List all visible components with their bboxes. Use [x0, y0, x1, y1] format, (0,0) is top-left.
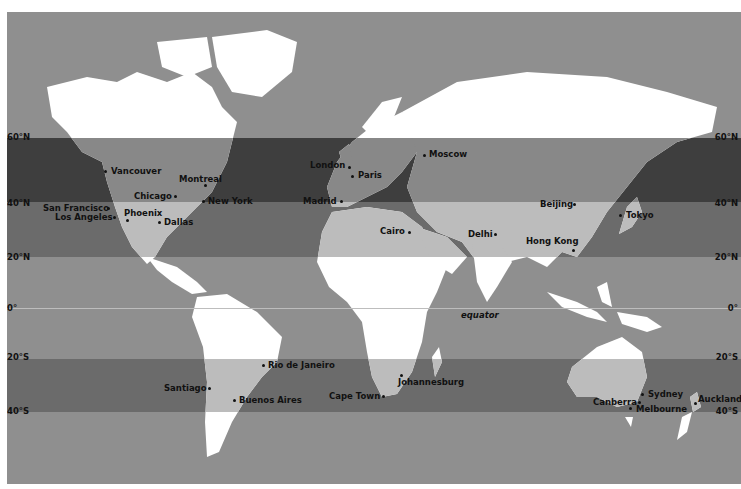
city-dot-paris: [351, 175, 354, 178]
city-label-moscow: Moscow: [429, 149, 467, 159]
city-label-new-york: New York: [208, 196, 253, 206]
lat-label-right-20n: 20°N: [715, 252, 738, 262]
lat-label-right-20s: 20°S: [716, 352, 738, 362]
lat-label-right-60n: 60°N: [715, 132, 738, 142]
city-label-los-angeles: Los Angeles: [55, 212, 113, 222]
city-dot-tokyo: [619, 214, 622, 217]
city-dot-los-angeles: [113, 216, 116, 219]
lat-label-right-40s: 40°S: [716, 406, 738, 416]
city-dot-moscow: [423, 154, 426, 157]
city-label-delhi: Delhi: [468, 229, 493, 239]
city-dot-chicago: [174, 195, 177, 198]
city-label-santiago: Santiago: [164, 383, 207, 393]
city-label-hong-kong: Hong Kong: [526, 236, 578, 246]
city-dot-montreal: [204, 184, 207, 187]
city-dot-santiago: [208, 387, 211, 390]
lat-label-left-40s: 40°S: [7, 406, 29, 416]
city-label-canberra: Canberra: [593, 397, 637, 407]
city-label-vancouver: Vancouver: [111, 166, 161, 176]
city-label-madrid: Madrid: [303, 196, 336, 206]
city-label-cape-town: Cape Town: [329, 391, 380, 401]
city-dot-london: [348, 166, 351, 169]
city-dot-delhi: [494, 233, 497, 236]
lat-label-left-0: 0°: [7, 303, 17, 313]
lat-label-left-40n: 40°N: [7, 198, 30, 208]
city-dot-sydney: [641, 393, 644, 396]
city-dot-rio-de-janeiro: [262, 364, 265, 367]
lat-label-right-40n: 40°N: [715, 198, 738, 208]
lat-label-right-0: 0°: [728, 303, 738, 313]
city-label-beijing: Beijing: [540, 199, 573, 209]
city-dot-auckland: [694, 402, 697, 405]
city-label-paris: Paris: [358, 170, 382, 180]
city-label-auckland: Auckland: [698, 394, 741, 404]
city-dot-madrid: [340, 200, 343, 203]
city-dot-melbourne: [629, 407, 632, 410]
city-dot-beijing: [573, 203, 576, 206]
city-label-buenos-aires: Buenos Aires: [239, 395, 302, 405]
city-label-tokyo: Tokyo: [626, 210, 654, 220]
city-dot-dallas: [158, 221, 161, 224]
city-label-dallas: Dallas: [164, 217, 193, 227]
city-label-johannesburg: Johannesburg: [398, 377, 464, 387]
city-label-cairo: Cairo: [380, 226, 405, 236]
city-dot-phoenix: [126, 219, 129, 222]
equator-line: [7, 308, 741, 309]
world-map: equator 60°N 40°N 20°N 0° 20°S 40°S 60°N…: [7, 12, 741, 484]
equator-label: equator: [461, 310, 499, 320]
land-masses: [7, 12, 741, 484]
city-dot-new-york: [202, 200, 205, 203]
city-label-sydney: Sydney: [648, 389, 683, 399]
city-label-rio-de-janeiro: Rio de Janeiro: [268, 360, 335, 370]
lat-label-left-20n: 20°N: [7, 252, 30, 262]
city-label-london: London: [310, 160, 345, 170]
lat-label-left-20s: 20°S: [7, 352, 29, 362]
city-dot-vancouver: [104, 170, 107, 173]
city-label-phoenix: Phoenix: [124, 208, 162, 218]
city-dot-cairo: [408, 231, 411, 234]
lat-label-left-60n: 60°N: [7, 132, 30, 142]
city-label-chicago: Chicago: [134, 191, 172, 201]
city-dot-cape-town: [382, 395, 385, 398]
city-dot-hong-kong: [572, 249, 575, 252]
city-dot-buenos-aires: [233, 399, 236, 402]
city-label-montreal: Montreal: [179, 174, 222, 184]
city-label-melbourne: Melbourne: [636, 404, 687, 414]
